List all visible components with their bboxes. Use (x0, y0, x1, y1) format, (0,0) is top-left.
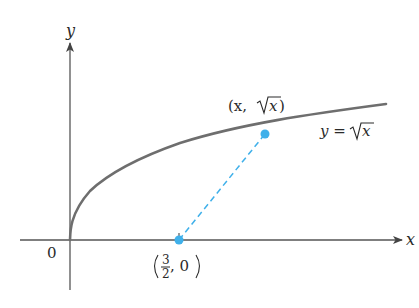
y-axis-label: y (65, 21, 76, 40)
svg-text:y =: y = (319, 122, 346, 140)
distance-segment (179, 134, 265, 240)
x-axis-label: x (406, 230, 415, 249)
axis-point-dot (175, 236, 184, 245)
svg-text:(x,: (x, (228, 97, 247, 115)
curve-point-label: (x, x ) (228, 97, 285, 115)
svg-text:3: 3 (162, 253, 170, 267)
svg-text:): ) (279, 97, 285, 115)
curve-equation-label: y = x (319, 122, 374, 140)
svg-text:2: 2 (162, 267, 170, 281)
axis-point-label: 3 2 , 0 (155, 253, 200, 281)
origin-label: 0 (47, 244, 57, 262)
sqrt-distance-diagram: y x 0 (x, x ) y = x 3 2 , 0 (0, 0, 419, 308)
svg-text:, 0: , 0 (170, 257, 189, 275)
svg-text:x: x (269, 97, 278, 115)
curve-point-dot (261, 130, 270, 139)
svg-text:x: x (362, 122, 371, 140)
